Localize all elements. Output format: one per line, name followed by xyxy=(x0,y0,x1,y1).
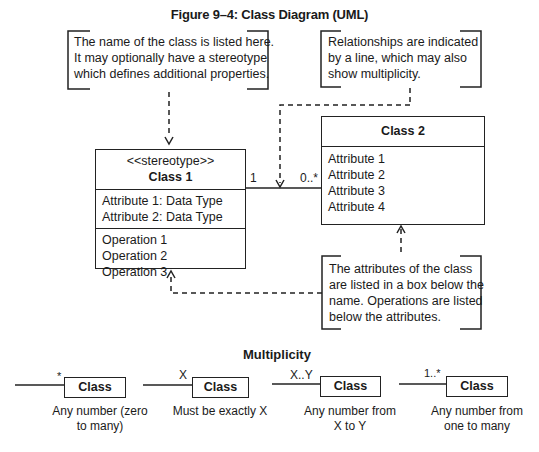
class1-name: Class 1 xyxy=(100,169,241,185)
attribute-item: Attribute 4 xyxy=(328,199,478,215)
desc-line: to many) xyxy=(45,419,155,434)
operation-item: Operation 1 xyxy=(102,232,239,248)
desc-line: Must be exactly X xyxy=(160,404,280,419)
mult-class-box: Class xyxy=(192,377,249,398)
note-line: The attributes of the class xyxy=(329,261,484,277)
note-line: name. Operations are listed xyxy=(329,293,484,309)
note-line: are listed in a box below the xyxy=(329,277,484,293)
attribute-item: Attribute 3 xyxy=(328,183,478,199)
association-left-multiplicity: 1 xyxy=(250,171,257,185)
desc-line: X to Y xyxy=(295,419,405,434)
class1-attributes: Attribute 1: Data Type Attribute 2: Data… xyxy=(96,189,245,228)
mult-class-box: Class xyxy=(446,376,508,397)
mult-desc: Any number from X to Y xyxy=(295,404,405,434)
note-line: The name of the class is listed here. xyxy=(74,34,274,50)
mult-label: * xyxy=(57,370,61,382)
class2-name: Class 2 xyxy=(326,123,480,139)
mult-class-box: Class xyxy=(64,377,126,398)
mult-label: X xyxy=(179,368,187,382)
attribute-item: Attribute 1: Data Type xyxy=(102,193,239,209)
mult-desc: Any number from one to many xyxy=(422,404,532,434)
note-line: Relationships are indicated xyxy=(328,34,478,50)
note-class-name: The name of the class is listed here. It… xyxy=(74,34,274,82)
note-attributes: The attributes of the class are listed i… xyxy=(329,261,484,325)
attribute-item: Attribute 1 xyxy=(328,151,478,167)
class1-stereotype: <<stereotype>> xyxy=(100,153,241,169)
class2-attributes: Attribute 1 Attribute 2 Attribute 3 Attr… xyxy=(322,146,484,218)
operation-item: Operation 2 xyxy=(102,248,239,264)
note-relationships: Relationships are indicated by a line, w… xyxy=(328,34,478,82)
desc-line: Any number from xyxy=(422,404,532,419)
operation-item: Operation 3 xyxy=(102,264,239,280)
mult-desc: Must be exactly X xyxy=(160,404,280,419)
desc-line: Any number (zero xyxy=(45,404,155,419)
note-line: by a line, which may also xyxy=(328,50,478,66)
association-right-multiplicity: 0..* xyxy=(300,171,318,185)
mult-label: X..Y xyxy=(290,368,313,382)
class2-box[interactable]: Class 2 Attribute 1 Attribute 2 Attribut… xyxy=(321,116,485,225)
note-line: which defines additional properties. xyxy=(74,66,274,82)
class1-header: <<stereotype>> Class 1 xyxy=(96,150,245,189)
note-line: show multiplicity. xyxy=(328,66,478,82)
attribute-item: Attribute 2: Data Type xyxy=(102,209,239,225)
desc-line: Any number from xyxy=(295,404,405,419)
mult-class-box: Class xyxy=(320,376,381,397)
mult-desc: Any number (zero to many) xyxy=(45,404,155,434)
class1-box[interactable]: <<stereotype>> Class 1 Attribute 1: Data… xyxy=(95,149,246,269)
multiplicity-heading: Multiplicity xyxy=(243,347,311,362)
class2-header: Class 2 xyxy=(322,117,484,146)
note-line: below the attributes. xyxy=(329,309,484,325)
attribute-item: Attribute 2 xyxy=(328,167,478,183)
note-line: It may optionally have a stereotype xyxy=(74,50,274,66)
class1-operations: Operation 1 Operation 2 Operation 3 xyxy=(96,228,245,283)
mult-label: 1..* xyxy=(424,367,441,379)
desc-line: one to many xyxy=(422,419,532,434)
